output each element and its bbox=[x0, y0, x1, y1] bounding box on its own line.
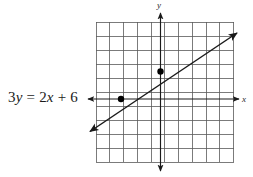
point-x-intercept bbox=[118, 96, 124, 102]
coordinate-plane bbox=[0, 0, 253, 177]
graph-figure: 3y = 2x + 6 y x bbox=[0, 0, 253, 177]
point-y-intercept bbox=[157, 68, 163, 74]
grid-group bbox=[96, 22, 234, 162]
